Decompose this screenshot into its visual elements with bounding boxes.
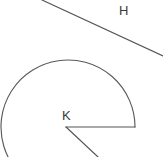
label-h: H xyxy=(119,4,128,17)
figure-canvas xyxy=(0,0,163,157)
line-h-segment xyxy=(42,0,163,56)
label-k: K xyxy=(62,109,71,122)
geometry-figure: H K xyxy=(0,0,163,157)
ray-lower-right xyxy=(66,127,98,157)
